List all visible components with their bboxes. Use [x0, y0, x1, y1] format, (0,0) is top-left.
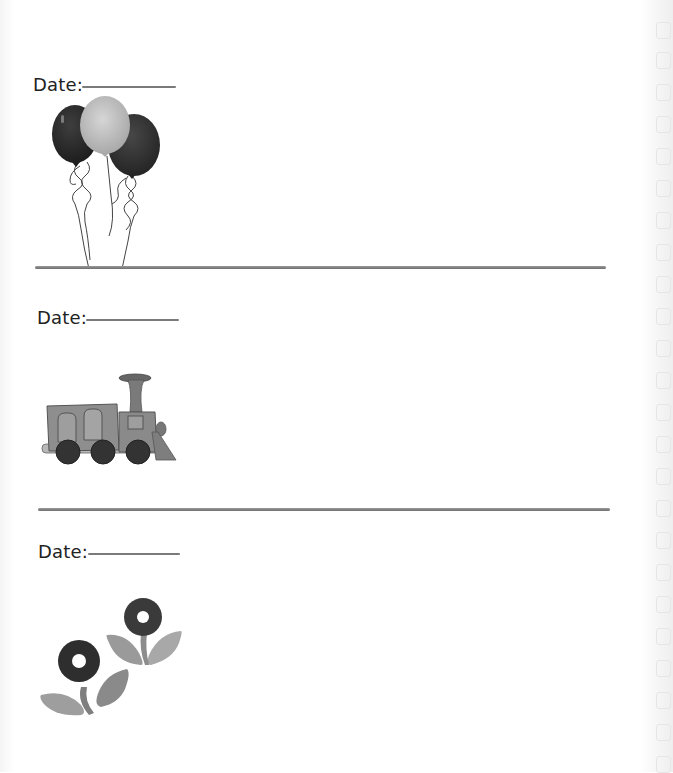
binder-hole [656, 660, 671, 677]
binder-hole [656, 276, 671, 293]
train-icon [40, 372, 180, 472]
binder-hole [656, 564, 671, 581]
binder-hole [656, 180, 671, 197]
binder-hole [656, 22, 671, 39]
binder-hole [656, 244, 671, 261]
date-blank-line[interactable] [82, 86, 176, 88]
binder-hole-strip [643, 0, 673, 772]
binder-hole [656, 212, 671, 229]
balloons-icon [40, 94, 175, 270]
binder-hole [656, 436, 671, 453]
date-label: Date: [38, 543, 88, 561]
binder-hole [656, 628, 671, 645]
section-divider [38, 508, 610, 511]
binder-hole [656, 468, 671, 485]
binder-hole [656, 340, 671, 357]
date-blank-line[interactable] [86, 319, 179, 321]
binder-hole [656, 84, 671, 101]
section-divider [35, 266, 606, 269]
binder-hole [656, 500, 671, 517]
date-label: Date: [33, 76, 83, 94]
binder-hole [656, 404, 671, 421]
binder-hole [656, 116, 671, 133]
binder-hole [656, 756, 671, 773]
date-blank-line[interactable] [88, 553, 180, 555]
binder-hole [656, 372, 671, 389]
binder-hole [656, 52, 671, 69]
binder-hole [656, 596, 671, 613]
binder-hole [656, 724, 671, 741]
flowers-icon [35, 595, 185, 720]
binder-hole [656, 692, 671, 709]
date-label: Date: [37, 309, 87, 327]
binder-hole [656, 308, 671, 325]
binder-hole [656, 532, 671, 549]
binder-hole [656, 148, 671, 165]
